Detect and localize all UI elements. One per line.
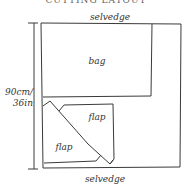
width-label-cm: 90cm/ <box>5 87 34 97</box>
selvedge-top-label: selvedge <box>90 12 130 22</box>
selvedge-bottom-label: selvedge <box>85 174 125 184</box>
flap-upper-label: flap <box>87 112 105 122</box>
width-label-in: 36in <box>13 98 33 108</box>
fabric-cutting-diagram: CUTTING LAYOUT selvedge bag flap flap se… <box>0 0 193 194</box>
bag-label: bag <box>89 56 106 66</box>
flap-lower-label: flap <box>54 142 72 152</box>
flap-pieces <box>43 101 114 164</box>
diagram-title: CUTTING LAYOUT <box>45 0 146 5</box>
